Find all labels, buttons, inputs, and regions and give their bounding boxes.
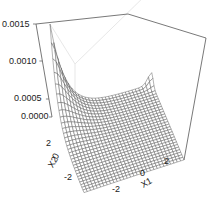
box-top-left-edge [36,14,128,24]
z-tick-0.0015: 0.0015 [2,19,30,29]
surface-wireframe [50,24,184,193]
x1-tick-0: 0 [140,168,145,178]
z-tick-0.0010: 0.0010 [9,56,37,66]
x1-tick-neg2: -2 [112,184,120,194]
plot-canvas: 0.0015 0.0010 0.0005 0.0000 2 0 X2 -2 -2… [0,0,217,205]
back-top-line [75,0,150,64]
z-tick-0.0005: 0.0005 [14,93,42,103]
surface-plot: 0.0015 0.0010 0.0005 0.0000 2 0 X2 -2 -2… [0,0,217,205]
x2-tick-neg2: -2 [64,172,72,182]
z-axis-line [36,24,52,117]
z-tick-0.0000: 0.0000 [21,111,49,121]
box-right-vertical-edge [184,38,206,160]
box-top-right-edge [128,14,206,38]
x1-tick-2: 2 [164,156,169,166]
x2-tick-2: 2 [46,138,51,148]
